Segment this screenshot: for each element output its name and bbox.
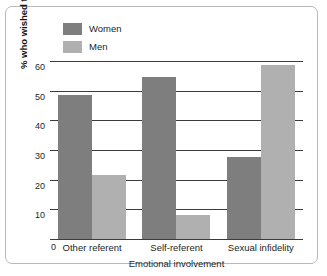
legend-label-women: Women (89, 24, 122, 34)
bars-container (50, 62, 303, 240)
legend-swatch-men (63, 41, 82, 53)
bar-women (58, 95, 92, 240)
x-axis-line (50, 239, 303, 240)
y-tick-label-50: 50 (34, 93, 51, 102)
x-category-label: Self-referent (134, 243, 218, 253)
bar-men (261, 65, 295, 240)
y-tick-label-30: 30 (34, 152, 51, 161)
bar-men (176, 215, 210, 240)
chart-figure: Women Men % who wished to ask type of qu… (5, 6, 318, 264)
x-axis-category-labels: Other referentSelf-referentSexual infide… (50, 243, 303, 253)
y-tick-label-60: 60 (34, 63, 51, 72)
bar-men (92, 175, 126, 240)
y-axis-title: % who wished to ask type of question (19, 0, 33, 69)
y-tick-label-20: 20 (34, 182, 51, 191)
bar-group (219, 62, 303, 240)
legend-label-men: Men (89, 42, 107, 52)
legend-item-men: Men (63, 39, 183, 54)
bar-women (142, 77, 176, 240)
y-tick-label-40: 40 (34, 122, 51, 131)
bar-group (134, 62, 218, 240)
chart-legend: Women Men (63, 21, 183, 57)
plot-area: 102030405060 (50, 62, 303, 240)
x-category-label: Sexual infidelity (219, 243, 303, 253)
legend-item-women: Women (63, 21, 183, 36)
bar-group (50, 62, 134, 240)
x-category-label: Other referent (50, 243, 134, 253)
x-axis-title: Emotional involvement (50, 259, 303, 269)
y-tick-label-10: 10 (34, 211, 51, 220)
legend-swatch-women (63, 23, 82, 35)
bar-women (227, 157, 261, 240)
